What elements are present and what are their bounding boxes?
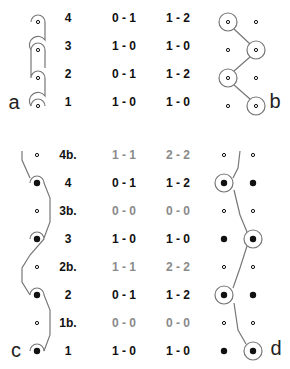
panel-letter-b: b <box>269 90 280 113</box>
score-1: 0 - 1 <box>112 176 136 190</box>
score-2: 1 - 0 <box>166 232 190 246</box>
score-1: 0 - 0 <box>112 316 136 330</box>
score-2: 2 - 2 <box>166 260 190 274</box>
row-label: 4 <box>65 11 72 25</box>
score-2: 1 - 2 <box>166 67 190 81</box>
score-2: 2 - 2 <box>166 148 190 162</box>
score-2: 1 - 0 <box>166 39 190 53</box>
panel-b-network <box>219 13 265 115</box>
score-1: 1 - 1 <box>112 148 136 162</box>
row-label: 3b. <box>59 204 76 218</box>
score-2: 0 - 0 <box>166 316 190 330</box>
score-1: 0 - 0 <box>112 204 136 218</box>
score-1: 0 - 1 <box>112 288 136 302</box>
score-1: 1 - 0 <box>112 39 136 53</box>
row-label: 1b. <box>59 316 76 330</box>
row-label: 1 <box>65 344 72 358</box>
row-label: 1 <box>65 95 72 109</box>
panel-a-chain <box>29 15 45 106</box>
score-2: 1 - 0 <box>166 95 190 109</box>
panel-letter-c: c <box>11 339 21 362</box>
row-label: 4b. <box>59 148 76 162</box>
score-1: 1 - 0 <box>112 95 136 109</box>
score-1: 1 - 1 <box>112 260 136 274</box>
score-1: 0 - 1 <box>112 67 136 81</box>
row-label: 2 <box>65 67 72 81</box>
row-label: 3 <box>65 232 72 246</box>
row-label: 2b. <box>59 260 76 274</box>
panel-letter-a: a <box>8 91 19 114</box>
score-1: 1 - 0 <box>112 232 136 246</box>
row-label: 4 <box>65 176 72 190</box>
score-1: 1 - 0 <box>112 344 136 358</box>
diagram-canvas <box>0 0 290 369</box>
score-2: 1 - 0 <box>166 344 190 358</box>
row-label: 2 <box>65 288 72 302</box>
row-label: 3 <box>65 39 72 53</box>
score-2: 1 - 2 <box>166 11 190 25</box>
score-1: 0 - 1 <box>112 11 136 25</box>
score-2: 0 - 0 <box>166 204 190 218</box>
panel-letter-d: d <box>270 337 281 360</box>
score-2: 1 - 2 <box>166 288 190 302</box>
score-2: 1 - 2 <box>166 176 190 190</box>
